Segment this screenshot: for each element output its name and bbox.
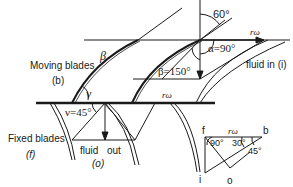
label-rw-triangle: rω: [228, 127, 238, 136]
label-moving-blades: Moving blades: [30, 61, 94, 71]
label-rw-top: rω: [250, 28, 260, 37]
label-fluid-out-symbol: (o): [92, 159, 104, 169]
label-rw-mid: rω: [162, 91, 172, 100]
label-tri-o: o: [227, 176, 233, 186]
label-alpha: α=90°: [208, 43, 235, 54]
label-beta-150: β=150°: [158, 66, 191, 77]
beta-arc: [192, 48, 200, 60]
guide-line: [138, 8, 182, 40]
label-moving-blades-symbol: (b): [52, 76, 64, 86]
label-tri-45: 45°: [248, 147, 262, 156]
label-fluid-in: fluid in (i): [246, 60, 287, 70]
label-fixed-blades: Fixed blades: [8, 134, 65, 144]
nu45-arc: [92, 103, 96, 112]
label-nu-45: ν=45°: [65, 107, 92, 118]
label-tri-90: 90°: [210, 139, 224, 148]
label-fluid-out-2: out: [107, 146, 121, 156]
label-angle-60: 60°: [213, 9, 230, 20]
label-tri-i: i: [199, 175, 201, 185]
label-tri-b: b: [263, 126, 269, 136]
label-tri-30: 30°: [232, 139, 246, 148]
label-fixed-blades-symbol: (f): [26, 150, 35, 160]
label-fluid-out: fluid: [80, 146, 98, 156]
label-tri-f: f: [202, 126, 205, 136]
tri-ob-line: [230, 152, 250, 168]
label-nu: ν: [86, 88, 91, 100]
turbine-blade-diagram: Moving blades (b) Fixed blades (f) fluid…: [0, 0, 293, 187]
60-degree-line: [200, 18, 232, 40]
label-beta: β: [100, 50, 106, 62]
